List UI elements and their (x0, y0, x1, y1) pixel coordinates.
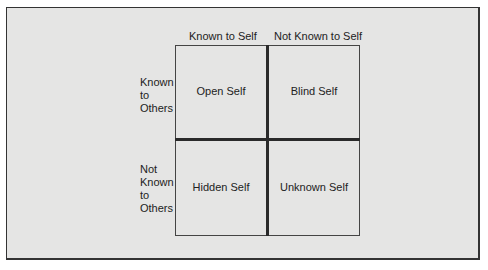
row-label-known-to-others: Known to Others (140, 76, 174, 115)
row-label-line: Known (140, 176, 174, 189)
horizontal-divider (175, 138, 360, 141)
cell-unknown-self: Unknown Self (269, 181, 359, 193)
cell-hidden-self: Hidden Self (176, 181, 266, 193)
column-label-not-known-to-self: Not Known to Self (274, 30, 362, 42)
row-label-line: Known (140, 76, 174, 89)
row-label-line: Not (140, 163, 174, 176)
row-label-line: Others (140, 102, 174, 115)
column-label-known-to-self: Known to Self (189, 30, 257, 42)
cell-blind-self: Blind Self (269, 85, 359, 97)
row-label-not-known-to-others: Not Known to Others (140, 163, 174, 215)
row-label-line: Others (140, 202, 174, 215)
row-label-line: to (140, 189, 174, 202)
row-label-line: to (140, 89, 174, 102)
cell-open-self: Open Self (176, 85, 266, 97)
